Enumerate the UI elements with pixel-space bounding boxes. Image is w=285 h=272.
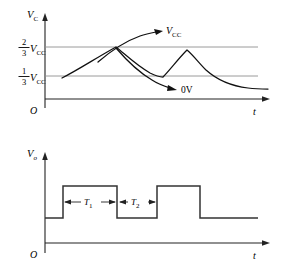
tick-label-one-third-vcc: 1 3 VCC [19, 66, 47, 87]
y-axis-output [42, 152, 48, 253]
figure-svg: VC O t 2 3 VCC 1 3 VCC [0, 0, 285, 272]
panel-output-voltage: Vo O t T1 [27, 148, 270, 261]
vcc-arrowhead [154, 29, 163, 35]
dimension-t1: T1 [64, 195, 116, 210]
waveform-figure: VC O t 2 3 VCC 1 3 VCC [0, 0, 285, 272]
tick-label-two-thirds-vcc: 2 3 VCC [19, 37, 47, 58]
dimension-t2: T2 [119, 195, 156, 210]
y-axis-label-output: Vo [27, 148, 37, 162]
x-axis-capacitor [45, 96, 270, 102]
x-axis-label-output: t [253, 250, 256, 261]
panel-capacitor-voltage: VC O t 2 3 VCC 1 3 VCC [19, 9, 271, 117]
vcc-annotation-label: VCC [166, 25, 182, 39]
y-axis-arrowhead [42, 13, 48, 21]
capacitor-voltage-curve [62, 47, 268, 89]
y-axis-arrowhead-output [42, 152, 48, 160]
origin-label-capacitor: O [30, 105, 37, 116]
zero-volt-arrowhead [167, 85, 177, 91]
zero-volt-annotation-label: 0V [181, 85, 193, 95]
origin-label-output: O [30, 249, 37, 260]
x-axis-arrowhead-output [262, 240, 270, 246]
y-axis-capacitor [42, 13, 48, 108]
svg-text:1: 1 [22, 66, 26, 76]
svg-text:2: 2 [22, 37, 26, 47]
y-axis-label-capacitor: VC [27, 9, 38, 23]
x-axis-arrowhead [262, 96, 270, 102]
x-axis-output [45, 240, 270, 246]
svg-text:3: 3 [22, 48, 26, 58]
svg-text:3: 3 [22, 77, 26, 87]
svg-text:VCC: VCC [30, 72, 46, 86]
x-axis-label-capacitor: t [253, 106, 256, 117]
svg-text:VCC: VCC [30, 43, 46, 57]
